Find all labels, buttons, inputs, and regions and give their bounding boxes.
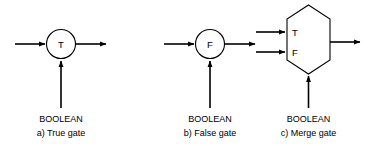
false-gate-group: F BOOLEAN b) False gate bbox=[164, 30, 255, 139]
merge-gate-false-symbol: F bbox=[292, 47, 298, 58]
merge-gate-true-symbol: T bbox=[292, 27, 298, 38]
merge-gate-caption: c) Merge gate bbox=[281, 128, 337, 138]
boolean-gates-figure: T BOOLEAN a) True gate F BOOLEAN b) Fals… bbox=[0, 0, 377, 146]
false-gate-symbol: F bbox=[207, 39, 213, 50]
false-gate-input-label: BOOLEAN bbox=[188, 114, 232, 124]
false-gate-caption: b) False gate bbox=[184, 128, 237, 138]
true-gate-group: T BOOLEAN a) True gate bbox=[15, 30, 106, 139]
figure-canvas: T BOOLEAN a) True gate F BOOLEAN b) Fals… bbox=[0, 0, 377, 146]
merge-gate-hexagon bbox=[287, 5, 330, 74]
true-gate-caption: a) True gate bbox=[37, 128, 86, 138]
true-gate-input-label: BOOLEAN bbox=[39, 114, 83, 124]
true-gate-symbol: T bbox=[58, 39, 64, 50]
merge-gate-input-label: BOOLEAN bbox=[287, 114, 331, 124]
merge-gate-group: T F BOOLEAN c) Merge gate bbox=[256, 5, 360, 138]
